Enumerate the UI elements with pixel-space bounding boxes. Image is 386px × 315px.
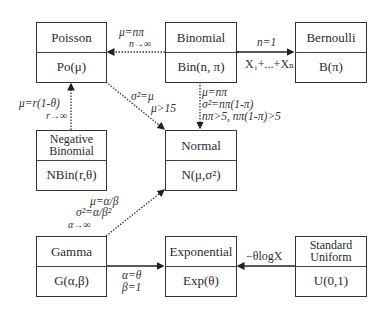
node-bernoulli-notation: B(π)	[296, 53, 366, 83]
node-negative-binomial: Negative Binomial NBin(r,θ)	[36, 130, 107, 191]
node-negative-binomial-name: Negative Binomial	[37, 131, 106, 161]
label-poisson-normal-2: μ>15	[151, 102, 176, 114]
node-normal-name: Normal	[166, 131, 236, 161]
node-poisson-name: Poisson	[37, 23, 106, 53]
label-negbin-poisson-2: r→∞	[46, 110, 67, 122]
label-bernoulli-binomial-below: X₁+...+Xₙ	[245, 58, 294, 70]
node-poisson-notation: Po(μ)	[37, 53, 106, 83]
node-bernoulli: Bernoulli B(π)	[295, 22, 367, 83]
node-negative-binomial-name-line2: Binomial	[49, 145, 94, 157]
node-poisson: Poisson Po(μ)	[36, 22, 107, 83]
label-bernoulli-binomial-above: n=1	[257, 36, 276, 48]
node-standard-uniform-name: Standard Uniform	[296, 237, 366, 267]
label-uniform-exponential: −θlogX	[246, 250, 283, 262]
label-gamma-normal-3: α→∞	[68, 219, 90, 231]
node-exponential-name: Exponential	[166, 237, 236, 267]
label-negbin-poisson-1: μ=r(1-θ)	[19, 97, 60, 109]
label-binomial-normal-3: nπ>5, nπ(1-π)>5	[202, 110, 281, 122]
node-binomial-notation: Bin(n, π)	[166, 53, 236, 83]
node-binomial-name: Binomial	[166, 23, 236, 53]
label-poisson-normal-1: σ²=μ	[131, 90, 154, 102]
node-binomial: Binomial Bin(n, π)	[165, 22, 237, 83]
node-bernoulli-name: Bernoulli	[296, 23, 366, 53]
label-binomial-normal-2: σ²=nπ(1-π)	[202, 98, 253, 110]
label-gamma-exponential-2: β=1	[122, 281, 141, 293]
node-gamma: Gamma G(α,β)	[36, 236, 107, 297]
node-standard-uniform: Standard Uniform U(0,1)	[295, 236, 367, 297]
label-binomial-poisson-2: n→∞	[129, 38, 151, 50]
node-normal-notation: N(μ,σ²)	[166, 161, 236, 191]
label-binomial-normal-1: μ=nπ	[202, 86, 227, 98]
label-binomial-poisson-1: μ=nπ	[119, 26, 144, 38]
node-negative-binomial-notation: NBin(r,θ)	[37, 161, 106, 191]
node-normal: Normal N(μ,σ²)	[165, 130, 237, 191]
node-exponential: Exponential Exp(θ)	[165, 236, 237, 297]
node-gamma-notation: G(α,β)	[37, 267, 106, 297]
node-gamma-name: Gamma	[37, 237, 106, 267]
node-exponential-notation: Exp(θ)	[166, 267, 236, 297]
label-gamma-normal-2: σ²=α/β²	[76, 206, 111, 218]
node-standard-uniform-notation: U(0,1)	[296, 267, 366, 297]
label-gamma-exponential-1: α=θ	[122, 269, 141, 281]
node-standard-uniform-name-line2: Uniform	[310, 251, 351, 263]
